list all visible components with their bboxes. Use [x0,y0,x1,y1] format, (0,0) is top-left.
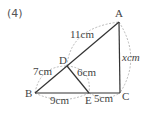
measure-db: 7cm [33,65,52,77]
edge-ac [119,22,120,93]
measure-ad: 11cm [70,28,94,40]
measure-be: 9cm [50,94,69,106]
measure-ec: 5cm [94,92,113,104]
vertex-e-label: E [85,94,92,106]
geometry-diagram: (4) A B C D E 11cm 7cm 6cm 9cm 5cm xcm [0,0,152,115]
vertex-a-label: A [115,7,123,19]
problem-number: (4) [7,7,23,20]
vertex-b-label: B [25,87,32,99]
measure-ac: xcm [121,51,140,63]
vertex-c-label: C [122,90,129,102]
measure-de: 6cm [77,66,96,78]
vertex-d-label: D [59,54,67,66]
